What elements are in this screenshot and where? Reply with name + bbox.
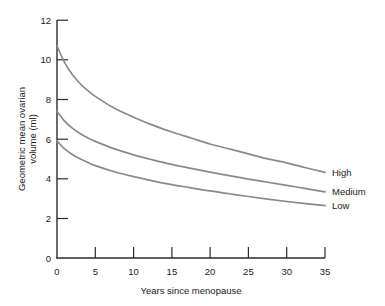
y-tick-label: 0 [46, 253, 51, 264]
x-axis-title: Years since menopause [140, 285, 241, 296]
y-tick-label: 12 [40, 15, 51, 26]
x-tick-label: 15 [167, 266, 178, 277]
y-tick-label: 4 [46, 173, 51, 184]
y-tick-label: 2 [46, 213, 51, 224]
y-axis-title-line2: volume (ml) [27, 114, 38, 164]
x-tick-label: 5 [93, 266, 98, 277]
x-tick-label: 25 [243, 266, 254, 277]
series-label-high: High [332, 167, 352, 178]
series-label-low: Low [332, 200, 350, 211]
x-tick-label: 20 [205, 266, 216, 277]
x-tick-label: 0 [54, 266, 59, 277]
ovarian-volume-line-chart: 12 10 8 6 4 2 0 0 5 10 15 20 25 30 35 Ye… [0, 0, 385, 306]
y-tick-label: 8 [46, 94, 51, 105]
x-tick-label: 10 [128, 266, 139, 277]
y-tick-label: 10 [40, 54, 51, 65]
x-tick-label: 30 [281, 266, 292, 277]
y-axis-title-line1: Geometric mean ovarian [16, 87, 27, 191]
x-tick-label: 35 [320, 266, 331, 277]
y-tick-label: 6 [46, 134, 51, 145]
series-label-medium: Medium [332, 186, 366, 197]
